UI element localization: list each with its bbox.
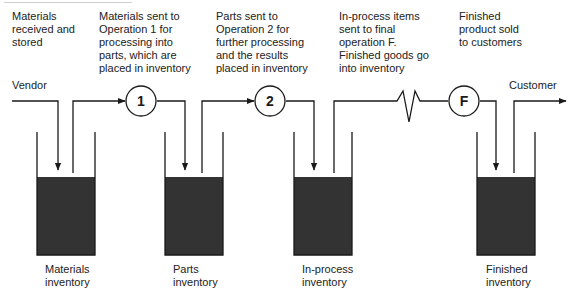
tank-parts xyxy=(165,132,223,255)
label-finished-inventory: Finished inventory xyxy=(486,263,531,289)
finished-to-customer-line xyxy=(514,101,566,173)
op1-to-parts-line xyxy=(157,101,185,170)
tank-in-process xyxy=(294,132,352,255)
parts-to-op2-line xyxy=(202,101,254,173)
svg-text:F: F xyxy=(460,93,469,109)
op2-to-inprocess-line xyxy=(286,101,314,170)
vendor-flow-line xyxy=(12,101,58,170)
label-parts-inventory: Parts inventory xyxy=(173,263,218,289)
operation-1-node: 1 xyxy=(126,86,156,116)
flow-graphic: 1 2 F xyxy=(0,0,578,298)
operation-2-node: 2 xyxy=(255,86,285,116)
opF-to-finished-line xyxy=(480,101,496,170)
inprocess-to-opF-line xyxy=(334,91,448,173)
label-in-process-inventory: In-process inventory xyxy=(302,263,353,289)
svg-text:1: 1 xyxy=(137,93,145,109)
label-materials-inventory: Materials inventory xyxy=(45,263,90,289)
materials-to-op1-line xyxy=(73,101,125,173)
inventory-flow-diagram: Materials received and stored Materials … xyxy=(0,0,578,298)
svg-text:2: 2 xyxy=(266,93,274,109)
tank-finished xyxy=(477,132,535,255)
tank-materials xyxy=(37,132,95,255)
operation-F-node: F xyxy=(449,86,479,116)
